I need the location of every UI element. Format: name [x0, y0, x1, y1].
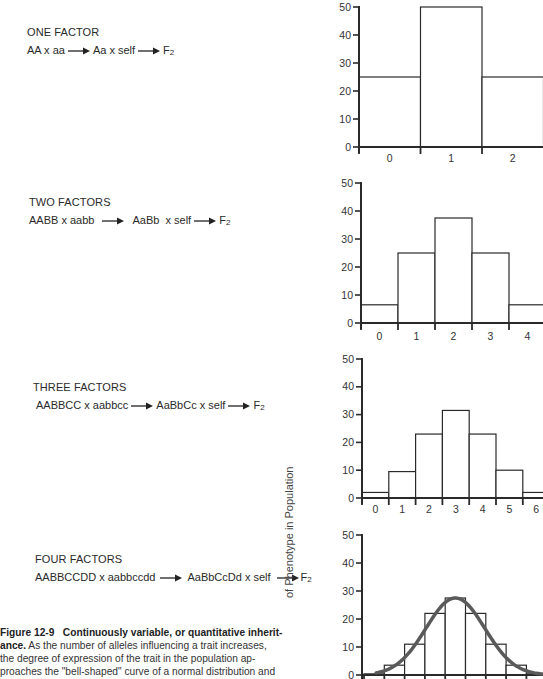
- histogram-bar: [421, 7, 483, 147]
- caption-line: the degree of expression of the trait in…: [0, 653, 255, 664]
- y-tick-label: 0: [347, 317, 353, 329]
- histogram-bar: [398, 253, 435, 323]
- y-tick-label: 10: [342, 464, 354, 476]
- figure-title: Continuously variable, or quantitative i…: [63, 627, 283, 638]
- caption-line: As the number of alleles influencing a t…: [28, 640, 266, 651]
- y-tick-label: 10: [342, 641, 354, 653]
- figure-number: Figure 12-9: [0, 627, 54, 638]
- y-tick-label: 50: [339, 1, 351, 13]
- y-tick-label: 30: [342, 585, 354, 597]
- x-category-label: 5: [506, 503, 512, 515]
- figure-caption: Figure 12-9 Continuously variable, or qu…: [0, 626, 312, 678]
- histogram-bar: [486, 644, 506, 675]
- caption-line: proaches the "bell-shaped" curve of a no…: [0, 666, 275, 677]
- x-category-label: 1: [399, 503, 405, 515]
- histogram-bar: [469, 434, 496, 498]
- histogram-bar: [359, 77, 421, 147]
- x-category-label: 0: [387, 152, 393, 164]
- histogram-bar: [509, 305, 543, 323]
- y-tick-label: 0: [348, 669, 354, 679]
- histogram-chart-4: 01020304050: [342, 529, 543, 679]
- x-category-label: 2: [426, 503, 432, 515]
- figure-title-cont: ance.: [0, 640, 26, 651]
- x-category-label: 6: [533, 503, 539, 515]
- histogram-chart-3: 010203040500123456: [342, 353, 543, 516]
- y-tick-label: 50: [342, 529, 354, 541]
- histogram-bar: [496, 470, 523, 498]
- y-tick-label: 20: [342, 436, 354, 448]
- y-tick-label: 0: [348, 492, 354, 504]
- x-category-label: 2: [510, 152, 516, 164]
- histogram-bar: [416, 434, 443, 498]
- histogram-chart-2: 0102030405001234: [341, 177, 543, 343]
- y-tick-label: 20: [339, 85, 351, 97]
- x-category-label: 0: [372, 503, 378, 515]
- y-tick-label: 50: [342, 353, 354, 365]
- x-category-label: 3: [453, 503, 459, 515]
- x-category-label: 1: [448, 152, 454, 164]
- x-category-label: 1: [414, 330, 420, 342]
- histogram-bar: [442, 410, 469, 498]
- y-tick-label: 10: [341, 289, 353, 301]
- y-tick-label: 30: [342, 408, 354, 420]
- histogram-bar: [445, 598, 465, 675]
- y-tick-label: 30: [341, 233, 353, 245]
- y-tick-label: 0: [345, 141, 351, 153]
- y-axis-label: of Phenotype in Population: [283, 458, 295, 598]
- x-category-label: 4: [480, 503, 486, 515]
- x-category-label: 4: [525, 330, 531, 342]
- histogram-bar: [482, 77, 543, 147]
- y-tick-label: 40: [341, 205, 353, 217]
- x-category-label: 2: [451, 330, 457, 342]
- histogram-bar: [361, 305, 398, 323]
- x-category-label: 0: [377, 330, 383, 342]
- histogram-bar: [389, 472, 416, 498]
- histogram-bar: [435, 218, 472, 323]
- y-tick-label: 20: [341, 261, 353, 273]
- y-tick-label: 50: [341, 177, 353, 189]
- y-tick-label: 30: [339, 57, 351, 69]
- histogram-bar: [472, 253, 509, 323]
- y-tick-label: 40: [339, 29, 351, 41]
- y-tick-label: 40: [342, 557, 354, 569]
- histogram-chart-1: 01020304050012: [339, 1, 543, 165]
- histogram-charts: 0102030405001201020304050012340102030405…: [0, 0, 543, 679]
- y-tick-label: 10: [339, 113, 351, 125]
- y-tick-label: 20: [342, 613, 354, 625]
- histogram-bar: [405, 644, 425, 675]
- x-category-label: 3: [488, 330, 494, 342]
- y-tick-label: 40: [342, 380, 354, 392]
